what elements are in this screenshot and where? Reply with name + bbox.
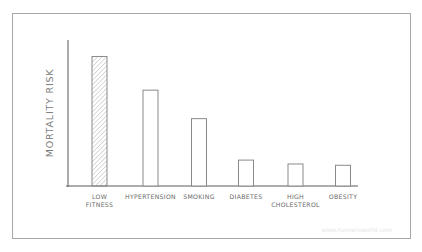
y-axis-label: MORTALITY RISK (44, 69, 55, 158)
x-tick-label: DIABETES (230, 193, 263, 200)
x-tick-label: HIGH (287, 193, 304, 200)
bar-obesity (336, 165, 351, 186)
bar-smoking (192, 119, 207, 186)
bar-diabetes (239, 160, 254, 186)
x-tick-label: CHOLESTEROL (271, 201, 320, 208)
bar-hypertension (143, 90, 158, 186)
chart-axes (66, 40, 358, 187)
bar-chart: LOWFITNESSHYPERTENSIONSMOKINGDIABETESHIG… (0, 0, 422, 252)
bar-high-cholesterol (288, 164, 303, 186)
watermark: www.runnersworld.com (322, 226, 393, 233)
x-tick-label: OBESITY (329, 193, 357, 200)
bars (92, 56, 351, 186)
bar-low-fitness (92, 56, 107, 186)
x-tick-label: SMOKING (183, 193, 215, 200)
x-tick-label: FITNESS (86, 201, 114, 208)
x-tick-label: HYPERTENSION (125, 193, 176, 200)
x-tick-labels: LOWFITNESSHYPERTENSIONSMOKINGDIABETESHIG… (86, 193, 358, 208)
x-tick-label: LOW (92, 193, 107, 200)
